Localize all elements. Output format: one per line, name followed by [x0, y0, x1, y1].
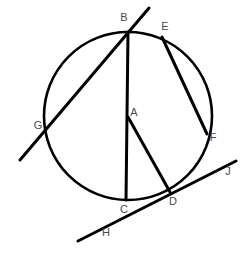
point-label-f: F	[210, 131, 217, 143]
point-label-g: G	[34, 119, 43, 131]
chord-e-to-f	[162, 37, 207, 134]
radius-a-to-d	[128, 117, 170, 192]
geometry-figure: ABCDEFGHJ	[0, 0, 245, 255]
point-label-h: H	[102, 226, 110, 238]
geometry-canvas: ABCDEFGHJ	[0, 0, 245, 255]
secant-line-through-g-and-b	[20, 8, 149, 160]
segment-layer	[20, 8, 236, 241]
point-label-e: E	[161, 20, 168, 32]
point-label-j: J	[225, 165, 231, 177]
point-label-a: A	[130, 106, 138, 118]
point-label-c: C	[120, 203, 128, 215]
point-label-b: B	[120, 11, 127, 23]
point-label-d: D	[169, 195, 177, 207]
